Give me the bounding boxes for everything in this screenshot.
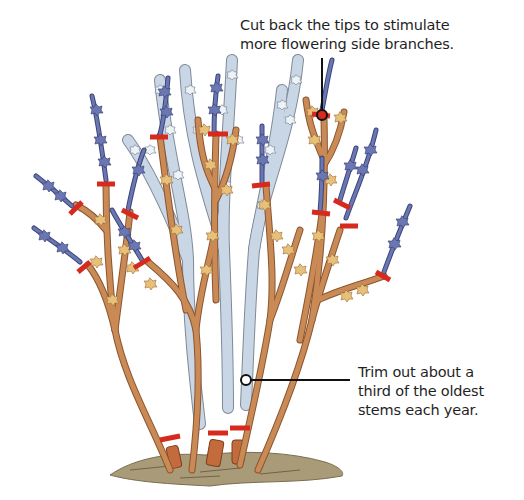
shrub-illustration xyxy=(0,0,524,500)
callout-line: stems each year. xyxy=(358,401,484,420)
callout-label-tip-pruning: Cut back the tips to stimulate more flow… xyxy=(240,16,454,54)
callout-line: third of the oldest xyxy=(358,382,484,401)
callout-line: Cut back the tips to stimulate xyxy=(240,16,454,35)
pruning-diagram: Cut back the tips to stimulate more flow… xyxy=(0,0,524,500)
soil-mound xyxy=(110,452,343,486)
callout-label-stem-removal: Trim out about a third of the oldest ste… xyxy=(358,363,484,420)
callout-line: Trim out about a xyxy=(358,363,484,382)
callout-line: more flowering side branches. xyxy=(240,35,454,54)
